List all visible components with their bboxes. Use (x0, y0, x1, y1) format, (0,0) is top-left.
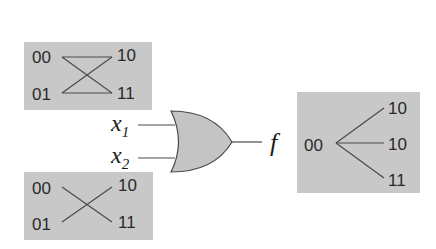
input-label-x2: x2 (111, 143, 129, 172)
diagram-canvas: 00 01 10 11 00 01 10 11 00 10 10 11 (0, 0, 436, 249)
diagram-lines (0, 0, 436, 249)
edge-00-11 (336, 143, 384, 178)
output-label-f: f (270, 130, 277, 156)
edge-00-10 (336, 108, 384, 143)
var-sub: 1 (122, 124, 130, 140)
var-base: x (111, 110, 122, 136)
or-gate-icon (171, 111, 232, 172)
var-sub: 2 (122, 156, 130, 172)
var-base: x (111, 142, 122, 168)
input-label-x1: x1 (111, 111, 129, 140)
